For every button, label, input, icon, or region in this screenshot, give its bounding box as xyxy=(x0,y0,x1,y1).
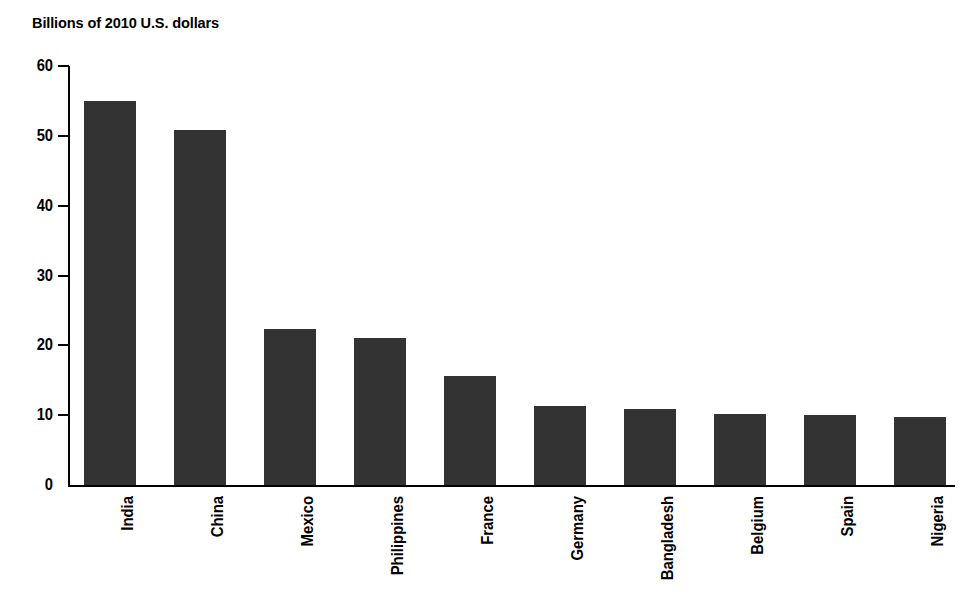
x-axis-label: Bangladesh xyxy=(659,496,677,615)
x-axis-label: Germany xyxy=(569,496,587,615)
x-axis-line xyxy=(68,485,955,487)
x-axis-label: Belgium xyxy=(749,496,767,615)
bar xyxy=(84,101,136,485)
x-axis-label: Nigeria xyxy=(929,496,947,615)
y-tick-label: 30 xyxy=(11,268,53,284)
bar xyxy=(804,415,856,485)
bar xyxy=(444,376,496,485)
y-tick-mark xyxy=(58,344,69,346)
bar-chart: Billions of 2010 U.S. dollars 0102030405… xyxy=(0,0,976,615)
x-axis-label: Mexico xyxy=(299,496,317,615)
y-tick-label: 20 xyxy=(11,337,53,353)
y-tick-mark xyxy=(58,135,69,137)
bar xyxy=(174,130,226,485)
y-tick-mark xyxy=(58,65,69,67)
y-tick-mark xyxy=(58,275,69,277)
bar xyxy=(264,329,316,485)
y-tick-mark xyxy=(58,205,69,207)
x-axis-label: Philippines xyxy=(389,496,407,615)
x-axis-label: France xyxy=(479,496,497,615)
x-axis-label: India xyxy=(119,496,137,615)
x-axis-label: Spain xyxy=(839,496,857,615)
y-tick-label: 60 xyxy=(11,58,53,74)
y-tick-label: 0 xyxy=(11,477,53,493)
bar xyxy=(894,417,946,485)
x-axis-label: China xyxy=(209,496,227,615)
y-tick-label: 40 xyxy=(11,198,53,214)
y-axis-line xyxy=(68,66,70,487)
bar xyxy=(534,406,586,485)
plot-area: 0102030405060 IndiaChinaMexicoPhilippine… xyxy=(0,0,976,615)
y-tick-label: 10 xyxy=(11,407,53,423)
y-tick-mark xyxy=(58,414,69,416)
bar xyxy=(354,338,406,485)
bar xyxy=(714,414,766,485)
bar xyxy=(624,409,676,485)
y-tick-label: 50 xyxy=(11,128,53,144)
